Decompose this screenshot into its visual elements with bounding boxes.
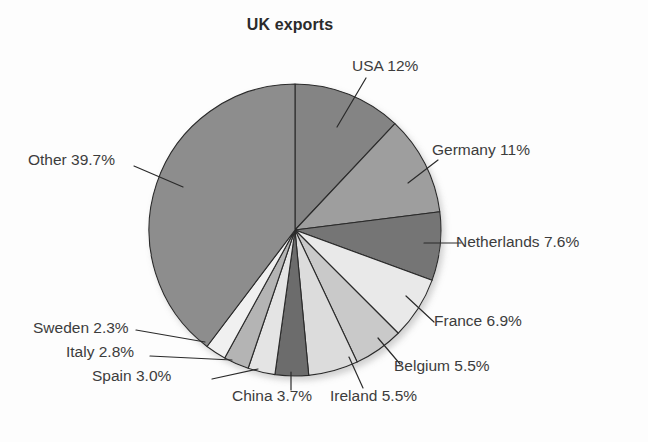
- pie-slice-group: [149, 84, 441, 376]
- pie-chart-figure: UK exports USA 12% Germany 11% Netherlan…: [0, 0, 648, 442]
- slice-label-germany: Germany 11%: [432, 142, 530, 158]
- slice-label-china: China 3.7%: [232, 388, 312, 404]
- slice-label-usa: USA 12%: [352, 58, 418, 74]
- leader-line-spain: [212, 369, 258, 379]
- slice-label-italy: Italy 2.8%: [66, 344, 134, 360]
- slice-label-ireland: Ireland 5.5%: [330, 388, 417, 404]
- slice-label-netherlands: Netherlands 7.6%: [456, 234, 579, 250]
- slice-label-sweden: Sweden 2.3%: [33, 320, 129, 336]
- slice-label-france: France 6.9%: [434, 313, 522, 329]
- slice-label-belgium: Belgium 5.5%: [394, 358, 490, 374]
- leader-line-italy: [150, 356, 232, 360]
- slice-label-spain: Spain 3.0%: [92, 368, 171, 384]
- slice-label-other: Other 39.7%: [28, 152, 115, 168]
